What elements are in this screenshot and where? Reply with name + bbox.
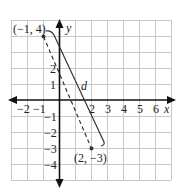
y-tick--1: −1 (44, 111, 57, 123)
x-tick-4: 4 (121, 103, 127, 115)
y-tick-2: 2 (50, 63, 56, 75)
y-axis-down-arrow-icon (56, 179, 64, 188)
x-axis-left-arrow-icon (8, 96, 17, 104)
point-b-label: (2, −3) (74, 152, 107, 164)
y-tick-1: 1 (50, 79, 56, 91)
y-tick--3: −3 (44, 143, 57, 155)
y-tick--4: −4 (44, 159, 57, 171)
distance-label: d (81, 80, 87, 92)
coordinate-plane: (−1, 4) (2, −3) d y x −2 −1 2 3 4 5 6 2 … (0, 0, 183, 193)
point-a-label: (−1, 4) (13, 23, 46, 35)
y-tick--2: −2 (44, 127, 57, 139)
x-tick-2: 2 (89, 103, 95, 115)
point-b-marker (90, 147, 94, 151)
x-tick-5: 5 (137, 103, 143, 115)
x-tick-3: 3 (105, 103, 111, 115)
x-tick-6: 6 (153, 103, 159, 115)
x-axis-label: x (164, 103, 169, 115)
x-tick--2: −2 (17, 103, 30, 115)
y-axis-label: y (66, 22, 71, 34)
